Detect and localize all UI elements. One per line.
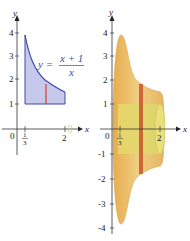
right-graph: y x 4 3 2 1 -1 -2 -3 -4 0 1 3 2 [98,7,187,234]
y-tick-1: 1 [103,99,108,109]
y-tick-neg4: -4 [98,223,106,233]
x-axis-label: x [84,124,89,134]
origin-label: 0 [105,131,110,141]
y-tick-2: 2 [9,74,14,84]
y-tick-1: 1 [9,99,14,109]
equation-denominator: x [68,66,74,78]
y-axis-label: y [12,8,17,18]
y-tick-2: 2 [103,75,108,85]
x-tick-third-num: 1 [23,131,27,139]
y-tick-3: 3 [9,51,14,61]
x-axis-arrow-icon [176,127,181,132]
origin-label: 0 [10,131,15,141]
x-tick-2: 2 [62,133,67,143]
x-tick-third-den: 3 [118,139,122,147]
y-axis-label: y [108,7,113,17]
x-axis-label: x [182,124,187,134]
equation-lhs: y = [37,58,53,70]
y-tick-neg2: -2 [98,174,106,184]
x-tick-third-num: 1 [118,131,122,139]
equation-numerator: x + 1 [59,52,83,64]
y-tick-4: 4 [103,28,108,38]
y-tick-4: 4 [9,28,14,38]
y-tick-neg1: -1 [98,149,106,159]
x-axis-arrow-icon [78,127,83,132]
x-tick-2: 2 [157,133,162,143]
x-tick-third-den: 3 [23,139,27,147]
y-tick-neg3: -3 [98,199,106,209]
left-graph: 1 2 3 4 y 0 1 3 2 x y = x + 1 x [2,8,89,155]
equation: y = x + 1 x [37,52,84,78]
y-tick-3: 3 [103,51,108,61]
figure: 1 2 3 4 y 0 1 3 2 x y = x + 1 x [0,0,190,241]
